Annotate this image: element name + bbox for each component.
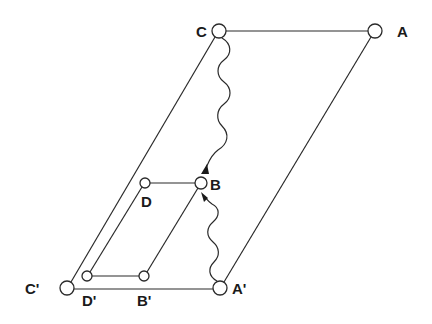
node-c-prime — [60, 281, 74, 295]
edge-cprime-c — [71, 37, 215, 282]
label-d-prime: D' — [82, 292, 96, 309]
node-a-prime — [213, 281, 227, 295]
edge-bprime-b — [147, 188, 198, 272]
label-a: A — [397, 23, 408, 40]
label-b-prime: B' — [137, 292, 151, 309]
label-c-prime: C' — [25, 280, 39, 297]
label-d: D — [141, 193, 152, 210]
node-d-prime — [82, 271, 92, 281]
label-b: B — [210, 176, 221, 193]
wavy-arrow-aprime-to-b — [205, 197, 218, 281]
node-b — [195, 177, 207, 189]
label-a-prime: A' — [232, 280, 246, 297]
node-a — [368, 24, 382, 38]
label-c: C — [196, 23, 207, 40]
node-c — [212, 24, 226, 38]
node-d — [140, 178, 150, 188]
parallelogram-diagram: C A C' A' D B D' B' — [0, 0, 432, 324]
arrowhead-up-icon — [201, 192, 208, 202]
arrowhead-down-icon — [201, 164, 209, 174]
edge-aprime-a — [224, 37, 371, 282]
node-b-prime — [139, 271, 149, 281]
wavy-arrow-c-to-b — [206, 38, 230, 168]
edge-dprime-d — [90, 187, 142, 272]
